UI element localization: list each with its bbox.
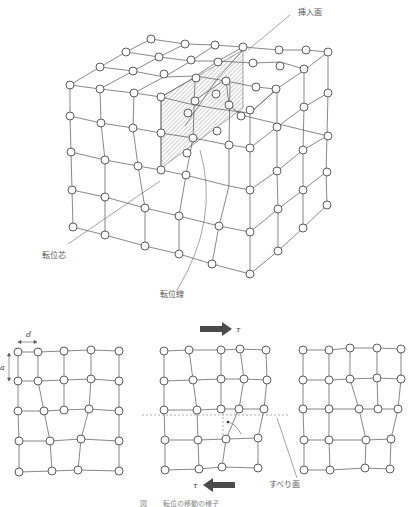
rotation-arrow <box>228 422 241 434</box>
dislocation-line-label: 転位線 <box>160 289 184 299</box>
spacing-arrows <box>8 341 38 382</box>
spacing-a-label: a <box>0 363 5 372</box>
shear-stress-top-label: τ <box>236 325 241 334</box>
shear-stress-bottom-label: τ <box>193 481 198 490</box>
shear-arrow-bottom <box>203 478 235 492</box>
spacing-d-label: d <box>26 330 31 339</box>
middle-lattice <box>164 349 267 470</box>
crystal-cube <box>70 39 328 274</box>
dislocation-figure: 挿入面 転位芯 転位線 d a <box>0 0 413 507</box>
shear-arrow-top <box>200 322 232 336</box>
insertion-plane-label: 挿入面 <box>298 7 322 17</box>
left-lattice <box>18 350 119 472</box>
slip-plane-leader <box>277 418 297 478</box>
figure-caption: 図 転位の移動の様子 <box>140 499 219 507</box>
dislocation-core-label: 転位芯 <box>42 250 66 260</box>
right-lattice <box>303 348 401 470</box>
slip-plane-label: すべり面 <box>269 480 300 489</box>
